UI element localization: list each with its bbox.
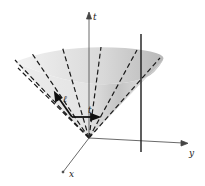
x-axis [63, 138, 89, 172]
y-axis-label: y [188, 148, 195, 158]
y-axis [89, 138, 183, 143]
light-cone-diagram: t y x ℓ t [0, 0, 205, 186]
t-axis-label: t [93, 12, 97, 22]
y-axis-arrowhead-icon [181, 141, 188, 147]
t-axis-arrowhead-icon [87, 12, 92, 19]
t-vector-label: t [88, 105, 92, 115]
ell-vector-label: ℓ [63, 94, 67, 104]
x-axis-label: x [69, 169, 74, 179]
x-axis-end-icon [62, 171, 64, 173]
